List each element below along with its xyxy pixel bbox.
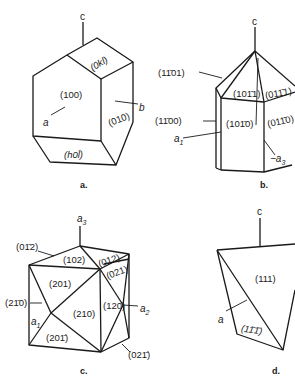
axis-label-a2: a2 <box>140 303 150 316</box>
caption-a: a. <box>80 180 88 190</box>
axis-label-neg-a3: −a3 <box>270 153 285 166</box>
face-label-210: (210) <box>73 308 95 319</box>
axis-label-a: a <box>218 314 224 325</box>
face-label-100: (100) <box>60 89 82 100</box>
crystal-d: c (111) a (11̄1̄) d. <box>217 206 295 376</box>
axis-label-a1: a1 <box>31 316 41 329</box>
axis-label-c: c <box>252 16 257 27</box>
face-label-010: (010) <box>106 110 131 129</box>
face-label-0111: (011̄1) <box>264 85 292 100</box>
axis-label-a1: a1 <box>174 133 184 146</box>
face-label-120: (120) <box>103 300 125 311</box>
crystal-c: a3 (01̄2) (102) (012) (021) (201) (21̄0)… <box>5 213 150 376</box>
face-label-1101: (11̄01) <box>158 67 185 78</box>
face-label-0kl: (0kl) <box>88 54 110 73</box>
axis-label-c: c <box>257 206 262 217</box>
face-label-1011: (101̄1) <box>233 88 260 99</box>
crystal-forms-diagram: c a b (0kl) (100) (010) (h0l̄) a. c (11̄… <box>0 0 295 383</box>
face-label-h0l: (h0l̄) <box>64 149 83 160</box>
leader-012bar <box>38 251 54 256</box>
axis-label-a: a <box>43 117 49 128</box>
face-label-201: (201) <box>49 278 71 289</box>
face-label-11bar1bar: (11̄1̄) <box>240 323 263 337</box>
axis-label-b: b <box>139 102 145 113</box>
face-label-210bar: (21̄0) <box>5 297 27 308</box>
crystal-b: c (11̄01) (101̄1) (011̄1) (11̄00) (101̄0… <box>155 16 295 190</box>
b-axis-line <box>115 101 138 104</box>
face-label-1010: (101̄0) <box>226 118 253 129</box>
crystal-a: c a b (0kl) (100) (010) (h0l̄) a. <box>33 11 145 190</box>
a1-axis-line <box>183 132 221 138</box>
face-label-1100: (11̄00) <box>155 115 182 126</box>
face-label-111: (111) <box>255 273 276 284</box>
axis-label-c: c <box>80 11 85 22</box>
face-label-201bar: (201̄) <box>46 332 68 343</box>
a-axis-line <box>51 107 65 115</box>
face-label-021bar: (021̄) <box>128 349 150 360</box>
face-label-102: (102) <box>63 254 85 265</box>
caption-d: d. <box>272 366 280 376</box>
caption-b: b. <box>260 180 268 190</box>
face-label-0110: (011̄0) <box>266 113 294 129</box>
leader-1101 <box>199 72 222 78</box>
face-label-012bar: (01̄2) <box>16 241 38 252</box>
a2-axis-line <box>123 305 138 306</box>
axis-label-a3: a3 <box>77 213 87 226</box>
caption-c: c. <box>80 366 88 376</box>
face-11-1-1 <box>217 250 283 350</box>
